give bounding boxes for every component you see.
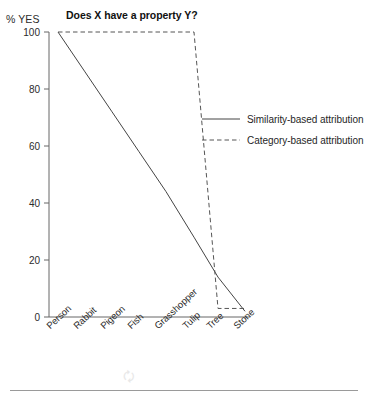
y-tick-label: 100 — [0, 27, 40, 38]
y-tick-label: 60 — [0, 141, 40, 152]
y-tick-label: 40 — [0, 198, 40, 209]
footer-divider — [10, 390, 358, 391]
y-tick-label: 80 — [0, 84, 40, 95]
watermark-glyph: 🗘 — [123, 367, 135, 389]
series-line — [58, 32, 245, 311]
series-lines-group — [58, 32, 245, 311]
y-tick-label: 20 — [0, 255, 40, 266]
legend-entry-label: Category-based attribution — [247, 135, 364, 146]
legend-line-samples — [202, 119, 240, 140]
figure-container: % YES Does X have a property Y? 02040608… — [0, 0, 368, 401]
legend-entry-label: Similarity-based attribution — [247, 114, 363, 125]
y-tick-label: 0 — [0, 312, 40, 323]
y-tick-marks — [44, 32, 49, 317]
axes-group — [44, 32, 250, 317]
plot-area — [0, 0, 368, 401]
